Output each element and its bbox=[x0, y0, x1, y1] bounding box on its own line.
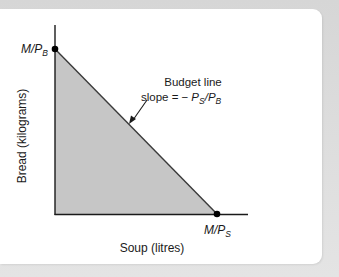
x-axis-title: Soup (litres) bbox=[120, 241, 185, 255]
annotation-slope: slope = −PS/PB bbox=[141, 91, 222, 106]
y-axis-title: Bread (kilograms) bbox=[15, 89, 29, 184]
x-intercept-label: M/PS bbox=[204, 223, 231, 239]
y-intercept-label: M/PB bbox=[21, 42, 48, 58]
y-intercept-dot bbox=[52, 46, 59, 53]
x-intercept-dot bbox=[214, 211, 221, 218]
budget-constraint-diagram: M/PB M/PS Budget line slope = −PS/PB Bre… bbox=[0, 0, 339, 277]
annotation-title: Budget line bbox=[164, 76, 222, 88]
annotation-arrow bbox=[133, 100, 147, 120]
